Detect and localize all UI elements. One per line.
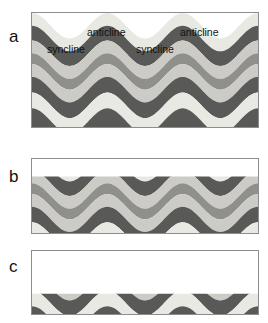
fold-cross-section-a: [32, 13, 258, 127]
panel-label-c: c: [9, 258, 18, 275]
annotation-syncline-right: syncline: [136, 44, 174, 55]
annotation-anticline-left: anticline: [87, 27, 126, 38]
panel-label-b: b: [9, 168, 18, 185]
panel-c: [31, 250, 259, 315]
fold-cross-section-b: [32, 159, 258, 233]
fold-cross-section-c: [32, 251, 258, 314]
panel-label-a: a: [9, 28, 18, 45]
panel-b: [31, 158, 259, 234]
annotation-syncline-left: syncline: [47, 44, 85, 55]
figure-root: a b c syncline anticline syncline anticl…: [0, 0, 268, 323]
annotation-anticline-right: anticline: [180, 27, 219, 38]
panel-a: [31, 12, 259, 128]
